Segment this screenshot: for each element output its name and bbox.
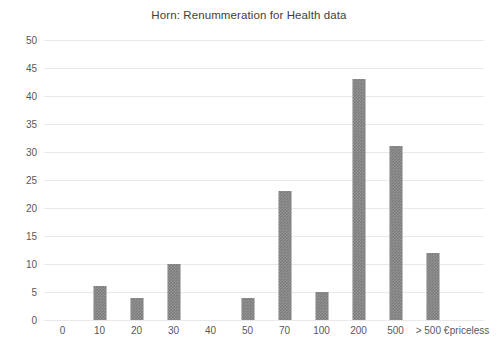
bar[interactable] [130, 298, 143, 320]
x-axis-tick-label: 50 [229, 325, 266, 336]
bar[interactable] [352, 79, 365, 320]
x-axis-tick-label: 20 [118, 325, 155, 336]
y-axis-tick-label: 35 [26, 119, 37, 130]
y-axis-tick-label: 10 [26, 259, 37, 270]
y-axis-tick-label: 50 [26, 35, 37, 46]
bar-slot [451, 40, 488, 320]
bar[interactable] [167, 264, 180, 320]
x-axis-tick-label: 100 [303, 325, 340, 336]
chart-title: Horn: Renummeration for Health data [0, 9, 498, 21]
bar[interactable] [426, 253, 439, 320]
x-axis: 0102030405070100200500> 500 €priceless [44, 322, 484, 344]
bar-chart: Horn: Renummeration for Health data 5045… [0, 0, 498, 349]
plot-area: 50454035302520151050 [44, 40, 484, 320]
x-axis-tick-label: priceless [442, 325, 498, 336]
x-axis-tick-label: 30 [155, 325, 192, 336]
y-axis-tick-label: 5 [31, 287, 37, 298]
y-axis-tick-label: 0 [31, 315, 37, 326]
x-axis-tick-label: 70 [266, 325, 303, 336]
y-axis-tick-label: 25 [26, 175, 37, 186]
bar-slot [414, 40, 451, 320]
y-axis-tick-label: 20 [26, 203, 37, 214]
bar-slot [303, 40, 340, 320]
bar-slot [229, 40, 266, 320]
bar-slot [266, 40, 303, 320]
bars-layer [44, 40, 484, 320]
bar-slot [192, 40, 229, 320]
bar[interactable] [241, 298, 254, 320]
y-axis-tick-label: 45 [26, 63, 37, 74]
bar-slot [44, 40, 81, 320]
x-axis-tick-label: 40 [192, 325, 229, 336]
x-axis-tick-label: 10 [81, 325, 118, 336]
bar-slot [340, 40, 377, 320]
y-axis-tick-label: 15 [26, 231, 37, 242]
bar-slot [155, 40, 192, 320]
bar[interactable] [93, 286, 106, 320]
bar[interactable] [315, 292, 328, 320]
x-axis-tick-label: 200 [340, 325, 377, 336]
y-axis-tick-label: 40 [26, 91, 37, 102]
bar-slot [118, 40, 155, 320]
bar-slot [81, 40, 118, 320]
bar[interactable] [278, 191, 291, 320]
bar-slot [377, 40, 414, 320]
gridline [44, 320, 484, 321]
bar[interactable] [389, 146, 402, 320]
y-axis-tick-label: 30 [26, 147, 37, 158]
x-axis-tick-label: 0 [44, 325, 81, 336]
